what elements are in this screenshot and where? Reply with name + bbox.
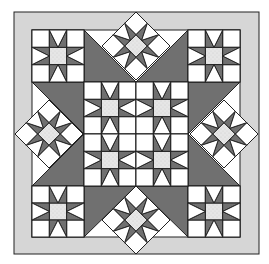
corner-square — [188, 30, 205, 47]
corner-square — [32, 186, 49, 203]
corner-square — [136, 134, 153, 151]
star-center — [101, 151, 118, 168]
corner-square — [136, 82, 153, 99]
corner-square — [223, 65, 240, 82]
quilt-svg — [0, 0, 269, 264]
corner-square — [171, 82, 188, 99]
star-block-corner-top-left — [32, 30, 84, 82]
corner-square — [84, 169, 101, 186]
corner-square — [171, 169, 188, 186]
star-center — [49, 47, 66, 64]
corner-square — [119, 117, 136, 134]
star-block-center-bottom-left — [84, 134, 136, 186]
corner-square — [67, 220, 84, 237]
star-center — [153, 151, 170, 168]
star-center — [153, 99, 170, 116]
corner-square — [119, 134, 136, 151]
corner-square — [171, 117, 188, 134]
corner-square — [136, 169, 153, 186]
corner-square — [32, 30, 49, 47]
corner-square — [188, 186, 205, 203]
corner-square — [223, 30, 240, 47]
corner-square — [67, 186, 84, 203]
quilt-image: Sawtooth Star Medallion Quilt — [0, 0, 269, 264]
star-block-center-top-left — [84, 82, 136, 134]
corner-square — [84, 117, 101, 134]
star-block-corner-bottom-left — [32, 186, 84, 237]
star-block-center-bottom-right — [136, 134, 188, 186]
corner-square — [119, 82, 136, 99]
corner-square — [188, 65, 205, 82]
corner-square — [119, 169, 136, 186]
star-center — [49, 203, 66, 220]
star-center — [101, 99, 118, 116]
corner-square — [188, 220, 205, 237]
star-block-center-top-right — [136, 82, 188, 134]
corner-square — [84, 82, 101, 99]
corner-square — [67, 65, 84, 82]
star-center — [205, 203, 222, 220]
star-center — [205, 47, 222, 64]
corner-square — [136, 117, 153, 134]
corner-square — [32, 65, 49, 82]
corner-square — [67, 30, 84, 47]
corner-square — [32, 220, 49, 237]
corner-square — [223, 186, 240, 203]
corner-square — [223, 220, 240, 237]
corner-square — [171, 134, 188, 151]
corner-square — [84, 134, 101, 151]
star-block-corner-top-right — [188, 30, 240, 82]
star-block-corner-bottom-right — [188, 186, 240, 237]
